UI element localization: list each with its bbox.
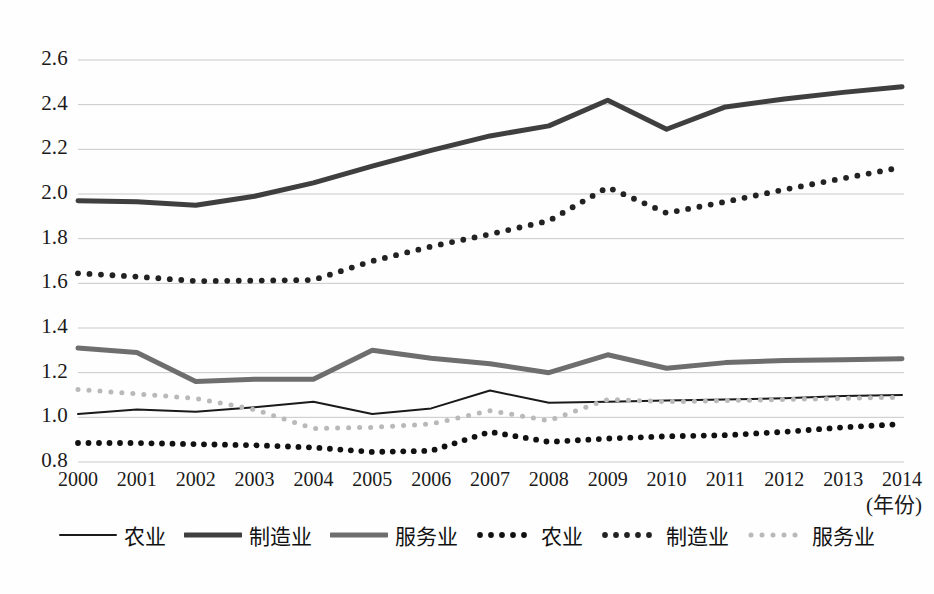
series-2-solid-thick-gray [78,348,902,382]
legend-item-4[interactable]: 制造业 [601,520,729,550]
legend-label: 农业 [124,520,166,550]
y-tick-label: 1.2 [20,359,68,384]
x-tick-label: 2002 [166,468,226,491]
y-tick-label: 2.2 [20,135,68,160]
series-5-dotted-light [76,387,895,431]
x-axis-title: (年份) [866,488,922,518]
x-tick-label: 2006 [401,468,461,491]
series-3-dotted-dark [75,422,895,455]
y-tick-label: 1.0 [20,403,68,428]
series-4-dotted-mid [75,166,894,284]
x-tick-label: 2012 [754,468,814,491]
x-tick-label: 2011 [695,468,755,491]
chart-plot-area [0,0,934,594]
legend-swatch-solid-thick-gray [330,526,388,544]
x-tick-label: 2009 [578,468,638,491]
y-tick-label: 2.4 [20,91,68,116]
x-tick-label: 2004 [283,468,343,491]
x-tick-label: 2013 [813,468,873,491]
legend-label: 农业 [541,520,583,550]
legend-label: 制造业 [666,520,729,550]
legend-label: 服务业 [812,520,875,550]
x-tick-label: 2001 [107,468,167,491]
legend-item-5[interactable]: 服务业 [747,520,875,550]
legend-swatch-solid-thin [59,526,117,544]
x-tick-label: 2008 [519,468,579,491]
y-tick-label: 2.0 [20,180,68,205]
y-tick-label: 1.8 [20,225,68,250]
chart-legend: 农业制造业服务业农业制造业服务业 [0,520,934,550]
x-tick-label: 2005 [342,468,402,491]
chart-container: 0.81.01.21.41.61.82.02.22.42.6 200020012… [0,0,934,594]
x-tick-label: 2003 [225,468,285,491]
y-tick-label: 2.6 [20,46,68,71]
y-tick-label: 1.4 [20,314,68,339]
x-tick-label: 2010 [637,468,697,491]
legend-label: 制造业 [249,520,312,550]
legend-swatch-dotted-light [747,526,805,544]
legend-swatch-dotted-dark [476,526,534,544]
legend-item-2[interactable]: 服务业 [330,520,458,550]
legend-swatch-dotted-mid [601,526,659,544]
y-tick-label: 1.6 [20,269,68,294]
legend-label: 服务业 [395,520,458,550]
legend-item-3[interactable]: 农业 [476,520,583,550]
legend-swatch-solid-thick [184,526,242,544]
legend-item-1[interactable]: 制造业 [184,520,312,550]
x-tick-label: 2007 [460,468,520,491]
legend-item-0[interactable]: 农业 [59,520,166,550]
x-tick-label: 2000 [48,468,108,491]
